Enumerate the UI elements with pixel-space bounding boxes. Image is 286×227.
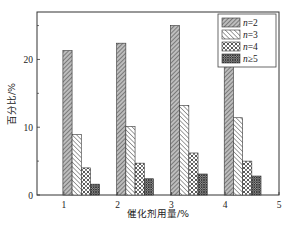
bar-group-2 [117, 43, 154, 195]
bar-chart: 01020 12345 催化剂用量/% 百分比/% n=2n=3n=4n≥5 [0, 0, 286, 227]
legend-item: n=3 [222, 30, 258, 40]
bar-n=3 [180, 106, 189, 195]
bar-n=2 [63, 51, 72, 195]
bar-n=3 [72, 135, 81, 195]
legend-label: n=2 [243, 18, 258, 28]
bar-n=2 [117, 43, 126, 195]
legend-swatch [222, 18, 240, 27]
legend-item: n=2 [222, 18, 258, 28]
x-tick-label: 5 [277, 200, 282, 210]
x-tick-label: 1 [62, 200, 67, 210]
legend-item: n=4 [222, 42, 258, 52]
legend: n=2n=3n=4n≥5 [218, 14, 276, 67]
bar-n=3 [126, 127, 135, 195]
bar-n=2 [170, 26, 179, 195]
legend-label: n=4 [243, 42, 258, 52]
bar-n=4 [243, 161, 252, 195]
y-axis-title: 百分比/% [6, 83, 17, 125]
x-axis-title: 催化剂用量/% [127, 208, 189, 219]
legend-swatch [222, 30, 240, 39]
bar-n=4 [189, 153, 198, 195]
y-tick-label: 0 [28, 191, 33, 201]
bar-n≥5 [252, 176, 261, 195]
x-tick-label: 2 [115, 200, 120, 210]
legend-label: n=3 [243, 30, 258, 40]
y-axis-ticks: 01020 [24, 26, 41, 201]
bar-group-3 [170, 26, 207, 195]
legend-swatch [222, 42, 240, 51]
bar-n≥5 [198, 174, 207, 195]
bar-n=3 [233, 118, 242, 195]
bar-n≥5 [144, 179, 153, 195]
legend-item: n≥5 [222, 54, 258, 64]
bar-group-1 [63, 51, 100, 195]
x-tick-label: 4 [223, 200, 228, 210]
bar-n=4 [135, 163, 144, 195]
bar-n=4 [81, 168, 90, 195]
bar-n≥5 [90, 184, 99, 195]
legend-label: n≥5 [243, 54, 258, 64]
y-tick-label: 20 [24, 55, 34, 65]
legend-swatch [222, 54, 240, 63]
y-tick-label: 10 [24, 123, 34, 133]
